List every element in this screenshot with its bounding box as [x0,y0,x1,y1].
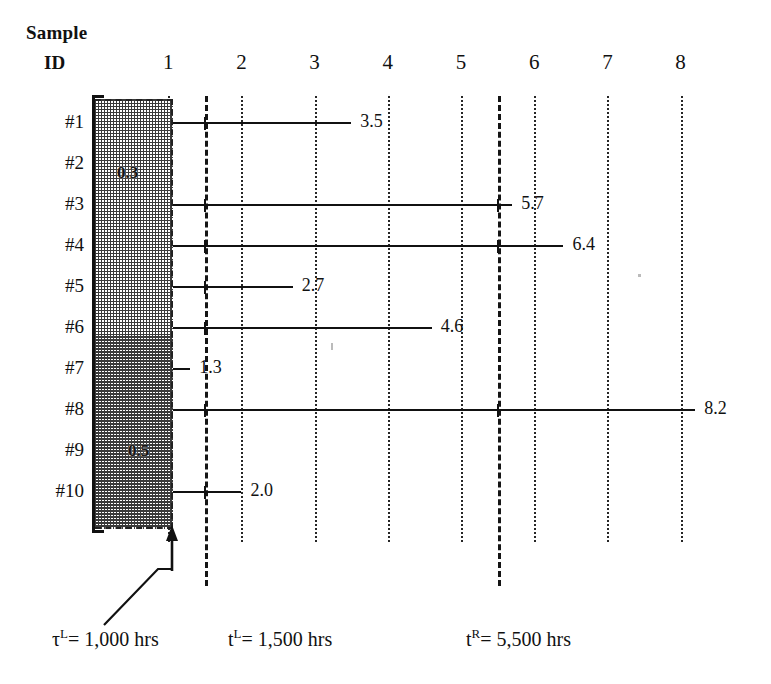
row-label-sample-4: #4 [12,235,84,255]
datum-line-sample-3 [173,204,512,206]
annotation-tau-l-symbol: τ [52,628,60,650]
annotation-t-l: tL= 1,500 hrs [228,628,332,650]
annotation-t-l-sup: L [234,626,242,641]
gridline-dotted-7 [607,96,609,542]
datum-crossmark-tl-sample-10 [204,486,206,499]
annotation-tau-l: τL= 1,000 hrs [52,628,159,650]
datum-value-sample-5: 2.7 [302,276,325,294]
x-tick-label-2: 2 [226,50,256,74]
reference-line-t-R [498,96,501,586]
lifetime-data-chart: Sample ID 12345678 #1#2#3#4#5#6#7#8#9#10… [0,0,771,684]
row-label-sample-2: #2 [12,153,84,173]
datum-crossmark-tr-sample-4 [497,240,499,253]
datum-crossmark-tl-sample-8 [204,404,206,417]
row-label-sample-6: #6 [12,317,84,337]
datum-crossmark-tl-sample-5 [204,281,206,294]
scan-speck [331,343,333,350]
annotation-t-l-text: = 1,500 hrs [242,628,333,650]
datum-crossmark-tr-sample-8 [497,404,499,417]
scan-speck [638,274,641,277]
gridline-dotted-2 [241,96,243,542]
datum-line-sample-10 [173,491,241,493]
y-axis-cap-top [92,95,104,98]
datum-line-sample-8 [173,409,695,411]
datum-crossmark-tr-sample-3 [497,199,499,212]
datum-crossmark-tl-sample-4 [204,240,206,253]
annotation-t-r-text: = 5,500 hrs [480,628,571,650]
datum-line-sample-7 [173,368,190,370]
annotation-tau-l-text: = 1,000 hrs [68,628,159,650]
datum-value-sample-8: 8.2 [704,399,727,417]
x-tick-label-3: 3 [300,50,330,74]
datum-value-sample-3: 5.7 [521,194,544,212]
tau-l-pointer-arrow [100,525,210,635]
row-label-sample-1: #1 [12,112,84,132]
x-tick-label-1: 1 [153,50,183,74]
row-label-sample-8: #8 [12,399,84,419]
gridline-dotted-8 [681,96,683,542]
datum-value-sample-7: 1.3 [199,358,222,376]
annotation-tau-l-sup: L [60,626,68,641]
datum-crossmark-tl-sample-6 [204,322,206,335]
left-censoring-band: 0.3 0.5 [95,99,173,529]
censor-label-lower: 0.5 [128,441,149,461]
axis-header-line1: Sample [26,22,87,44]
datum-value-sample-4: 6.4 [572,235,595,253]
datum-value-sample-10: 2.0 [250,481,273,499]
gridline-dotted-6 [534,96,536,542]
gridline-dotted-3 [315,96,317,542]
datum-line-sample-5 [173,286,292,288]
x-tick-label-8: 8 [666,50,696,74]
row-label-sample-9: #9 [12,440,84,460]
datum-value-sample-1: 3.5 [360,112,383,130]
x-tick-label-7: 7 [592,50,622,74]
datum-value-sample-6: 4.6 [441,317,464,335]
datum-line-sample-6 [173,327,431,329]
datum-line-sample-1 [173,122,351,124]
axis-header-line2: ID [44,52,66,74]
x-tick-label-5: 5 [446,50,476,74]
x-tick-label-6: 6 [519,50,549,74]
datum-line-sample-4 [173,245,563,247]
annotation-t-r: tR= 5,500 hrs [466,628,571,650]
x-tick-label-4: 4 [373,50,403,74]
row-label-sample-7: #7 [12,358,84,378]
reference-line-t-L [205,96,208,586]
datum-crossmark-tl-sample-3 [204,199,206,212]
gridline-dotted-4 [388,96,390,542]
row-label-sample-10: #10 [12,481,84,501]
row-label-sample-5: #5 [12,276,84,296]
row-label-sample-3: #3 [12,194,84,214]
censor-label-upper: 0.3 [117,163,138,183]
annotation-t-r-sup: R [472,626,481,641]
datum-crossmark-tl-sample-1 [204,117,206,130]
